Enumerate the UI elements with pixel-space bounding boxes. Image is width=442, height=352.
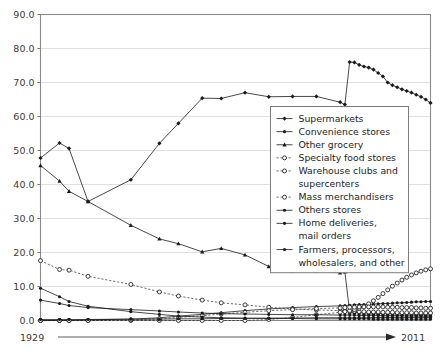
data-point	[339, 316, 342, 319]
data-point	[267, 309, 271, 313]
data-point	[376, 310, 380, 314]
data-point	[405, 275, 409, 279]
data-point	[390, 310, 394, 314]
y-axis-tick-label: 40.0	[13, 179, 34, 190]
data-point	[409, 306, 413, 310]
y-axis-tick-labels: 0.010.020.030.040.050.060.070.080.090.0	[13, 9, 40, 326]
data-point	[390, 284, 394, 288]
data-point	[419, 300, 422, 303]
legend-label[interactable]: Farmers, processors,	[299, 244, 395, 255]
data-point	[343, 306, 347, 310]
data-point	[419, 269, 423, 273]
data-point	[400, 278, 404, 282]
data-point	[352, 305, 356, 309]
data-point	[381, 316, 384, 319]
data-point	[67, 300, 70, 303]
data-point	[158, 318, 161, 321]
data-point	[343, 314, 346, 317]
data-point	[67, 268, 71, 272]
data-point	[291, 308, 295, 312]
data-point	[158, 309, 161, 312]
y-axis-tick-label: 20.0	[13, 247, 34, 258]
data-point	[367, 310, 371, 314]
data-point	[352, 60, 356, 64]
data-point	[367, 316, 370, 319]
data-point	[348, 305, 352, 309]
legend-label[interactable]: supercenters	[299, 178, 360, 189]
data-point	[429, 311, 433, 315]
legend[interactable]: SupermarketsConvenience storesOther groc…	[271, 107, 409, 273]
data-point	[386, 305, 390, 309]
data-point	[424, 316, 427, 319]
data-point	[419, 95, 423, 99]
data-point	[283, 130, 286, 133]
data-point	[371, 305, 375, 309]
data-point	[291, 317, 294, 320]
data-point	[267, 313, 270, 316]
data-point	[201, 317, 204, 320]
data-point	[267, 317, 270, 320]
x-axis-start-label: 1929	[20, 332, 44, 343]
data-point	[157, 237, 161, 241]
legend-label[interactable]: Supermarkets	[299, 113, 364, 124]
data-point	[409, 311, 413, 315]
data-point	[283, 169, 287, 173]
data-point	[405, 316, 408, 319]
data-point	[362, 310, 366, 314]
data-point	[386, 302, 389, 305]
y-axis-tick-label: 90.0	[13, 9, 34, 20]
data-point	[348, 316, 351, 319]
data-point	[391, 302, 394, 305]
data-point	[405, 306, 409, 310]
data-point	[39, 299, 42, 302]
data-point	[39, 318, 42, 321]
data-point	[367, 305, 371, 309]
legend-label[interactable]: Convenience stores	[299, 126, 391, 137]
data-point	[219, 301, 223, 305]
data-point	[390, 305, 394, 309]
data-point	[283, 248, 286, 251]
data-point	[371, 299, 375, 303]
data-point	[176, 294, 180, 298]
data-point	[67, 304, 70, 307]
data-point	[129, 223, 133, 227]
legend-label[interactable]: Other grocery	[299, 139, 364, 150]
data-point	[353, 316, 356, 319]
data-point	[243, 312, 246, 315]
legend-label[interactable]: Specialty food stores	[299, 152, 397, 163]
data-point	[39, 259, 43, 263]
data-point	[376, 305, 380, 309]
data-point	[177, 317, 180, 320]
data-point	[381, 305, 385, 309]
data-point	[391, 316, 394, 319]
chart-figure: 0.010.020.030.040.050.060.070.080.090.0 …	[0, 0, 442, 352]
data-point	[314, 94, 318, 98]
data-point	[219, 246, 223, 250]
data-point	[429, 300, 432, 303]
legend-label[interactable]: Mass merchandisers	[299, 191, 394, 202]
data-point	[429, 306, 433, 310]
data-point	[381, 292, 385, 296]
y-axis-tick-label: 10.0	[13, 281, 34, 292]
data-point	[357, 63, 361, 67]
data-point	[38, 163, 42, 167]
data-point	[220, 312, 223, 315]
data-point	[267, 95, 271, 99]
data-point	[290, 94, 294, 98]
data-point	[414, 271, 418, 275]
data-point	[424, 268, 428, 272]
data-point	[429, 267, 433, 271]
legend-label[interactable]: Home deliveries,	[299, 217, 377, 228]
legend-label[interactable]: wholesalers, and other	[299, 257, 405, 268]
legend-label[interactable]: mail orders	[299, 230, 352, 241]
data-point	[220, 317, 223, 320]
legend-label[interactable]: Warehouse clubs and	[299, 165, 398, 176]
y-axis-tick-label: 80.0	[13, 43, 34, 54]
data-point	[424, 300, 427, 303]
data-point	[386, 310, 390, 314]
data-point	[58, 318, 61, 321]
data-point	[58, 295, 61, 298]
legend-label[interactable]: Others stores	[299, 204, 362, 215]
data-point	[58, 268, 62, 272]
data-point	[87, 318, 90, 321]
